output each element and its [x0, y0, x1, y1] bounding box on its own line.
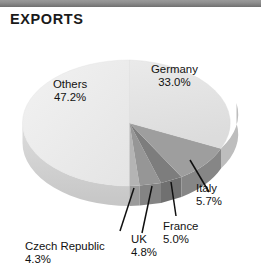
slice-label-others-value: 47.2% [53, 91, 87, 104]
slice-label-germany-value: 33.0% [151, 76, 198, 89]
slice-label-czech-republic-name: Czech Republic [25, 240, 105, 253]
slice-label-france-name: France [163, 220, 198, 233]
slice-label-france: France 5.0% [163, 220, 198, 246]
slice-label-czech-republic: Czech Republic 4.3% [25, 240, 105, 266]
slice-label-uk-value: 4.8% [131, 246, 157, 259]
slice-label-czech-republic-value: 4.3% [25, 253, 105, 266]
slice-label-others-name: Others [53, 78, 87, 91]
slice-label-italy-name: Italy [196, 182, 222, 195]
slice-label-italy: Italy 5.7% [196, 182, 222, 208]
slice-label-uk-name: UK [131, 233, 157, 246]
slice-label-france-value: 5.0% [163, 233, 198, 246]
slice-label-others: Others 47.2% [53, 78, 87, 104]
slice-label-germany: Germany 33.0% [151, 63, 198, 89]
slice-label-germany-name: Germany [151, 63, 198, 76]
slice-label-italy-value: 5.7% [196, 195, 222, 208]
slice-label-uk: UK 4.8% [131, 233, 157, 259]
